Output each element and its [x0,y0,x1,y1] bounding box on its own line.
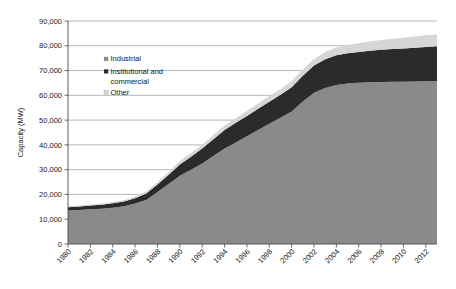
x-tick-label: 1986 [122,247,140,265]
x-tick-label: 2010 [390,247,408,265]
legend-label: Other [111,88,130,97]
y-tick-label: 30,000 [39,165,62,174]
y-tick-label: 80,000 [39,41,62,50]
x-tick-label: 2012 [413,247,431,265]
chart-container: 010,00020,00030,00040,00050,00060,00070,… [0,0,456,289]
y-tick-label: 0 [58,240,62,249]
legend-label: commercial [111,77,150,86]
y-tick-label: 40,000 [39,141,62,150]
x-tick-label: 2004 [323,247,341,265]
stacked-area-chart: 010,00020,00030,00040,00050,00060,00070,… [0,0,456,289]
legend-swatch [104,57,108,61]
y-tick-label: 90,000 [39,17,62,26]
legend-swatch [104,69,108,73]
y-tick-label: 50,000 [39,116,62,125]
y-tick-label: 70,000 [39,66,62,75]
x-tick-label: 1996 [234,247,252,265]
legend-label: Institutional and [111,67,164,76]
x-tick-label: 1990 [167,247,185,265]
x-tick-label: 1988 [144,247,162,265]
y-tick-label: 10,000 [39,215,62,224]
x-tick-label: 1982 [77,247,95,265]
y-axis-title: Capacity (MW) [16,107,25,157]
x-tick-label: 2000 [278,247,296,265]
y-tick-label: 60,000 [39,91,62,100]
x-tick-label: 2006 [345,247,363,265]
x-tick-label: 2002 [301,247,319,265]
y-tick-label: 20,000 [39,190,62,199]
x-tick-label: 1998 [256,247,274,265]
x-tick-label: 1984 [99,247,117,265]
x-tick-label: 2008 [368,247,386,265]
x-tick-label: 1994 [211,247,229,265]
x-tick-label: 1992 [189,247,207,265]
legend-label: Industrial [111,54,142,63]
x-tick-label: 1980 [55,247,73,265]
legend-swatch [104,90,108,94]
